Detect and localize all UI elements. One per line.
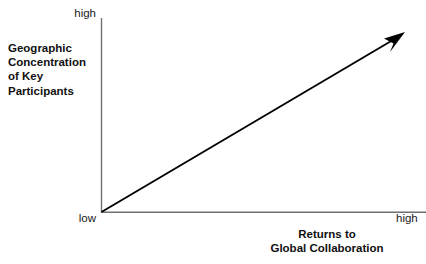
y-axis-title-line-4: Participants bbox=[8, 84, 86, 98]
y-axis-low-tick-label: low bbox=[0, 212, 96, 225]
chart-canvas: high low high Geographic Concentration o… bbox=[0, 0, 426, 264]
x-axis-high-tick-label: high bbox=[396, 212, 418, 225]
y-axis-high-tick-label: high bbox=[0, 7, 96, 20]
x-axis-title: Returns to Global Collaboration bbox=[244, 227, 410, 255]
x-axis-title-line-2: Global Collaboration bbox=[244, 241, 410, 255]
y-axis-title: Geographic Concentration of Key Particip… bbox=[8, 41, 86, 98]
trend-arrow-shaft bbox=[102, 37, 399, 212]
y-axis-title-line-2: Concentration bbox=[8, 55, 86, 69]
trend-arrow-head bbox=[384, 32, 405, 52]
x-axis-title-line-1: Returns to bbox=[244, 227, 410, 241]
y-axis-title-line-1: Geographic bbox=[8, 41, 86, 55]
y-axis-title-line-3: of Key bbox=[8, 69, 86, 83]
